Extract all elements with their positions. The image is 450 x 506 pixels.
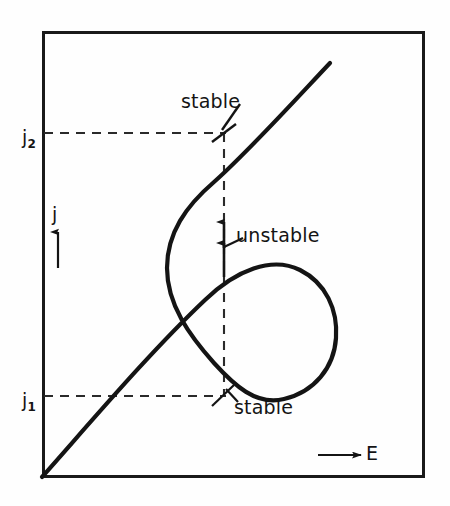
annotation-unstable: unstable: [236, 224, 320, 246]
y-axis-label: j: [52, 203, 57, 225]
tick-label-j2: j2: [22, 126, 36, 148]
annotation-stable-lower: stable: [234, 396, 293, 418]
figure-container: j2 j1 j E stable unstable stable: [0, 0, 450, 506]
annotation-stable-upper: stable: [181, 90, 240, 112]
x-axis-label: E: [366, 442, 378, 464]
sshape-curve-figure: [0, 0, 450, 506]
tick-label-j1: j1: [22, 389, 36, 411]
